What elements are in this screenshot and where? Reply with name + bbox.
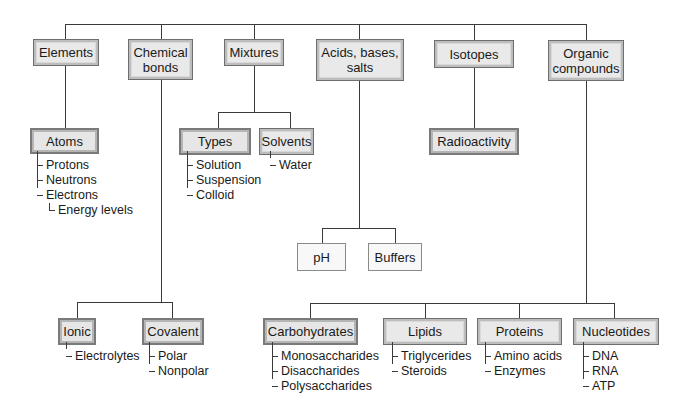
connector bbox=[310, 303, 615, 304]
node-carbohydrates: Carbohydrates bbox=[263, 318, 358, 345]
node-label: Nucleotides bbox=[582, 324, 650, 339]
connector bbox=[474, 24, 475, 40]
connector bbox=[310, 303, 311, 318]
connector bbox=[290, 112, 291, 128]
list-item: Enzymes bbox=[485, 364, 562, 379]
node-elements: Elements bbox=[33, 39, 99, 66]
connector bbox=[519, 303, 520, 318]
list-item: RNA bbox=[583, 364, 618, 379]
connector bbox=[425, 303, 426, 318]
node-ionic: Ionic bbox=[58, 318, 96, 345]
node-label: Acids, bases,salts bbox=[321, 45, 398, 75]
connector bbox=[586, 80, 587, 303]
list-item: Nonpolar bbox=[149, 364, 209, 379]
connector bbox=[172, 302, 173, 318]
ionic-list: Electrolytes bbox=[66, 349, 140, 364]
lipids-list: Triglycerides Steroids bbox=[392, 349, 471, 379]
connector bbox=[254, 24, 255, 39]
node-label: Covalent bbox=[147, 324, 198, 339]
connector bbox=[586, 24, 587, 40]
node-label: Proteins bbox=[496, 324, 544, 339]
connector bbox=[254, 65, 255, 112]
list-item: Protons bbox=[37, 158, 133, 173]
carbohydrates-list: Monosaccharides Disaccharides Polysaccha… bbox=[272, 349, 379, 394]
node-isotopes: Isotopes bbox=[434, 40, 514, 68]
connector bbox=[65, 24, 587, 25]
node-label: Mixtures bbox=[229, 45, 278, 60]
list-item: Steroids bbox=[392, 364, 471, 379]
solvents-list: Water bbox=[270, 158, 312, 173]
node-buffers: Buffers bbox=[368, 243, 422, 271]
node-ph: pH bbox=[297, 243, 346, 271]
list-item: Water bbox=[270, 158, 312, 173]
node-label: pH bbox=[313, 250, 330, 265]
node-chemical-bonds: Chemicalbonds bbox=[128, 39, 193, 80]
list-sub-item: Energy levels bbox=[37, 203, 133, 218]
connector bbox=[614, 303, 615, 318]
types-list: Solution Suspension Colloid bbox=[187, 158, 261, 203]
connector bbox=[161, 24, 162, 39]
node-label: Organiccompounds bbox=[552, 46, 619, 76]
node-label: Radioactivity bbox=[437, 134, 511, 149]
list-item: Amino acids bbox=[485, 349, 562, 364]
covalent-list: Polar Nonpolar bbox=[149, 349, 209, 379]
connector bbox=[77, 302, 173, 303]
connector bbox=[161, 79, 162, 302]
list-item: Polysaccharides bbox=[272, 379, 379, 394]
node-acids-bases-salts: Acids, bases,salts bbox=[316, 39, 404, 81]
node-label: Carbohydrates bbox=[268, 324, 353, 339]
list-item: Triglycerides bbox=[392, 349, 471, 364]
list-item: Electrolytes bbox=[66, 349, 140, 364]
connector bbox=[474, 67, 475, 128]
list-item: DNA bbox=[583, 349, 618, 364]
connector bbox=[395, 228, 396, 243]
connector bbox=[65, 24, 66, 39]
node-label: Chemicalbonds bbox=[133, 45, 187, 75]
connector bbox=[65, 65, 66, 128]
node-radioactivity: Radioactivity bbox=[429, 128, 519, 155]
nucleotides-list: DNA RNA ATP bbox=[583, 349, 618, 394]
proteins-list: Amino acids Enzymes bbox=[485, 349, 562, 379]
list-item: ATP bbox=[583, 379, 618, 394]
node-label: Buffers bbox=[375, 250, 416, 265]
list-item: Suspension bbox=[187, 173, 261, 188]
connector bbox=[359, 24, 360, 39]
list-item: Monosaccharides bbox=[272, 349, 379, 364]
node-lipids: Lipids bbox=[383, 318, 467, 345]
node-label: Solvents bbox=[262, 134, 312, 149]
node-atoms: Atoms bbox=[30, 128, 99, 154]
node-label: Types bbox=[198, 134, 233, 149]
node-label: Elements bbox=[39, 45, 93, 60]
list-item: Neutrons bbox=[37, 173, 133, 188]
connector bbox=[322, 228, 323, 243]
node-label: Ionic bbox=[63, 324, 90, 339]
list-item: Disaccharides bbox=[272, 364, 379, 379]
connector bbox=[218, 112, 219, 128]
connector bbox=[77, 302, 78, 318]
node-label: Atoms bbox=[46, 134, 83, 149]
node-mixtures: Mixtures bbox=[224, 39, 284, 66]
node-label: Lipids bbox=[408, 324, 442, 339]
list-item: Electrons bbox=[37, 188, 133, 203]
node-solvents: Solvents bbox=[259, 128, 314, 155]
list-item: Polar bbox=[149, 349, 209, 364]
connector bbox=[359, 80, 360, 228]
node-nucleotides: Nucleotides bbox=[573, 318, 659, 345]
node-types: Types bbox=[179, 128, 251, 155]
connector bbox=[218, 112, 290, 113]
node-proteins: Proteins bbox=[477, 318, 562, 345]
node-label: Isotopes bbox=[449, 47, 498, 62]
atoms-list: Protons Neutrons Electrons Energy levels bbox=[37, 158, 133, 218]
list-item: Solution bbox=[187, 158, 261, 173]
node-organic-compounds: Organiccompounds bbox=[548, 40, 624, 81]
node-covalent: Covalent bbox=[142, 318, 204, 345]
list-item: Colloid bbox=[187, 188, 261, 203]
connector bbox=[322, 228, 396, 229]
